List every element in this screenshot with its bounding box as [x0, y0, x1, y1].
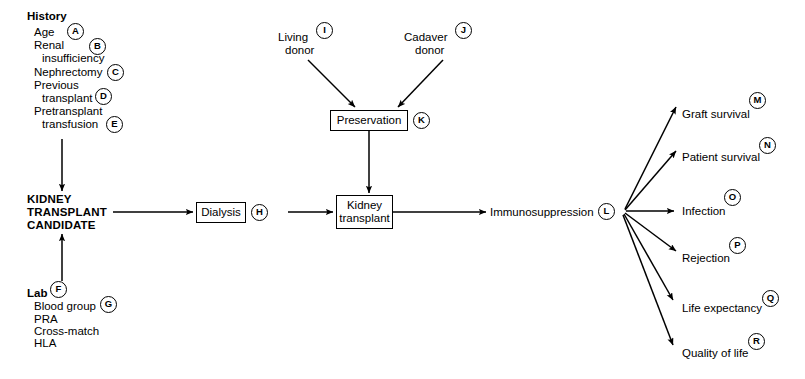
node-dialysis: Dialysis — [196, 202, 246, 223]
tag-j: J — [455, 22, 472, 39]
history-item-renal: Renal — [34, 39, 64, 52]
outcome-label-rejection: Rejection — [682, 252, 730, 265]
living-donor-line-2: donor — [285, 44, 314, 57]
edge-living-donor-to-preservation — [308, 60, 355, 107]
tag-r: R — [748, 333, 765, 350]
tag-o: O — [724, 189, 741, 206]
kidney-transplant-line-1: Kidney — [347, 199, 382, 212]
history-item-previous: Previous — [34, 79, 79, 92]
edge-immunosuppression-to-quality-of-life — [623, 215, 673, 345]
history-item-transplant: transplant — [42, 92, 93, 105]
lab-item-blood-group: Blood group — [34, 300, 96, 313]
edge-immunosuppression-to-rejection — [625, 213, 676, 251]
history-item-nephrectomy: Nephrectomy — [34, 66, 102, 79]
tag-q: Q — [762, 290, 779, 307]
cadaver-donor-line-1: Cadaver — [404, 31, 447, 44]
tag-h: H — [251, 204, 268, 221]
edge-immunosuppression-to-patient-survival — [625, 151, 676, 210]
kidney-transplant-line-2: transplant — [339, 212, 390, 225]
tag-e: E — [106, 116, 123, 133]
kidney-transplant-flow-diagram: History Age Renal insufficiency Nephrect… — [0, 0, 805, 379]
tag-g: G — [100, 296, 117, 313]
history-heading: History — [27, 10, 67, 23]
lab-heading: Lab — [27, 287, 47, 300]
immunosuppression-label: Immunosuppression — [490, 206, 594, 219]
node-kidney-transplant: Kidney transplant — [336, 195, 393, 229]
candidate-line-2: TRANSPLANT — [27, 206, 107, 219]
outcome-label-patient-survival: Patient survival — [682, 151, 760, 164]
lab-item-cross-match: Cross-match — [34, 325, 99, 338]
diagram-connector-edges — [0, 0, 805, 379]
tag-n: N — [759, 137, 776, 154]
tag-k: K — [413, 112, 430, 129]
tag-c: C — [107, 64, 124, 81]
tag-b: B — [89, 38, 106, 55]
edge-immunosuppression-to-graft-survival — [625, 107, 676, 209]
cadaver-donor-line-2: donor — [415, 44, 444, 57]
history-item-pretransplant: Pretransplant — [34, 105, 102, 118]
tag-a: A — [67, 23, 84, 40]
history-item-transfusion: transfusion — [42, 118, 98, 131]
candidate-line-1: KIDNEY — [27, 193, 72, 206]
tag-d: D — [95, 88, 112, 105]
outcome-label-life-expectancy: Life expectancy — [682, 302, 762, 315]
lab-item-pra: PRA — [34, 313, 58, 326]
tag-i: I — [316, 22, 333, 39]
lab-item-hla: HLA — [34, 337, 56, 350]
tag-f: F — [50, 281, 67, 298]
tag-p: P — [729, 237, 746, 254]
outcome-label-quality-of-life: Quality of life — [682, 347, 748, 360]
dialysis-label: Dialysis — [201, 206, 241, 219]
history-item-age: Age — [34, 26, 54, 39]
candidate-line-3: CANDIDATE — [27, 219, 96, 232]
node-preservation: Preservation — [330, 110, 408, 131]
outcome-label-graft-survival: Graft survival — [682, 108, 750, 121]
preservation-label: Preservation — [337, 114, 402, 127]
outcome-label-infection: Infection — [682, 205, 725, 218]
living-donor-line-1: Living — [278, 31, 308, 44]
tag-l: L — [598, 203, 615, 220]
edge-immunosuppression-to-life-expectancy — [624, 214, 673, 300]
tag-m: M — [749, 92, 766, 109]
edge-cadaver-donor-to-preservation — [398, 60, 443, 107]
